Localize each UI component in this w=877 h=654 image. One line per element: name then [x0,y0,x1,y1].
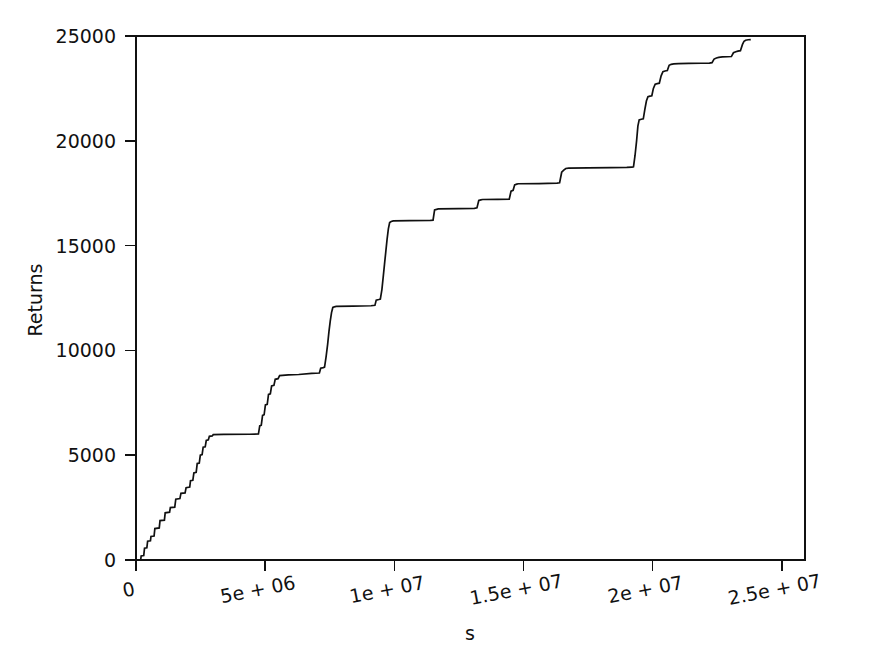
x-tick-label: 2e + 07 [606,571,685,607]
y-axis-title: Returns [24,264,46,337]
plot-frame [136,36,805,560]
y-tick-label: 10000 [56,339,116,361]
x-tick-label: 1e + 07 [348,571,427,607]
y-tick-label: 20000 [56,130,116,152]
y-tick-label: 5000 [68,444,116,466]
y-axis-ticks: 0500010000150002000025000 [56,25,136,571]
plot-area: 05e + 061e + 071.5e + 072e + 072.5e + 07… [0,0,877,654]
y-tick-label: 25000 [56,25,116,47]
x-tick-label: 0 [121,577,137,601]
data-series-group [136,40,751,560]
y-tick-label: 0 [104,549,116,571]
y-tick-label: 15000 [56,235,116,257]
x-tick-label: 2.5e + 07 [726,569,823,609]
x-tick-label: 1.5e + 07 [468,569,565,609]
data-series-line [136,40,751,560]
x-axis-title: s [465,622,475,644]
x-tick-label: 5e + 06 [218,571,297,607]
x-axis-ticks: 05e + 061e + 071.5e + 072e + 072.5e + 07 [121,560,823,609]
chart-figure: 05e + 061e + 071.5e + 072e + 072.5e + 07… [0,0,877,654]
